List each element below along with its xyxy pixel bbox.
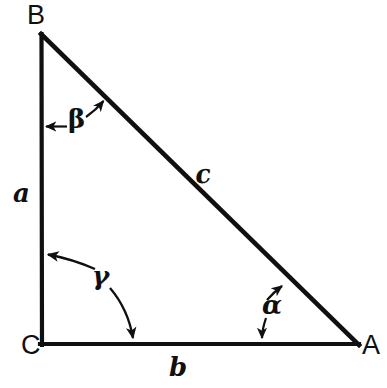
- side-c-line: [41, 34, 359, 345]
- vertex-label-c: C: [21, 332, 41, 359]
- vertex-label-a: A: [362, 332, 380, 359]
- angle-label-gamma: γ: [92, 263, 109, 289]
- side-label-a: a: [13, 180, 30, 206]
- angle-label-alpha: α: [262, 292, 282, 318]
- beta-arrow-to-side-c: [86, 101, 104, 117]
- side-label-c: c: [194, 160, 212, 188]
- vertex-label-b: B: [27, 2, 45, 29]
- alpha-arrow-to-side-b: [262, 318, 266, 338]
- angle-label-beta: β: [68, 106, 85, 132]
- geometry-figure: B C A a b c α β γ: [0, 0, 387, 388]
- gamma-arc-lower: [110, 288, 133, 338]
- side-label-b: b: [169, 354, 187, 380]
- side-a-line: [42, 34, 43, 345]
- triangle-diagram-svg: [0, 0, 387, 388]
- gamma-arc-upper: [48, 255, 95, 270]
